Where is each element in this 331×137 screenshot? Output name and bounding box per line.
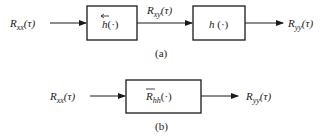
- caption-a: (a): [155, 47, 168, 60]
- block-h-reversed-label: h(·): [102, 18, 119, 31]
- input-label-b: Rxx(τ): [49, 90, 75, 105]
- output-label-a: Ryy(τ): [287, 17, 313, 32]
- diagram-b: Rxx(τ) Rhh(·) Ryy(τ) (b): [49, 80, 271, 133]
- input-label-a: Rxx(τ): [9, 17, 35, 32]
- block-rhh-label: Rhh(·): [145, 90, 172, 105]
- block-h-label: h (·): [209, 18, 229, 31]
- middle-label-a: Rxy(τ): [146, 4, 172, 19]
- output-label-b: Ryy(τ): [245, 90, 271, 105]
- caption-b: (b): [155, 120, 168, 133]
- block-diagram: Rxx(τ) h(·) Rxy(τ) h (·) Ryy(τ) (a) Rxx(…: [0, 0, 331, 137]
- diagram-a: Rxx(τ) h(·) Rxy(τ) h (·) Ryy(τ) (a): [9, 4, 313, 60]
